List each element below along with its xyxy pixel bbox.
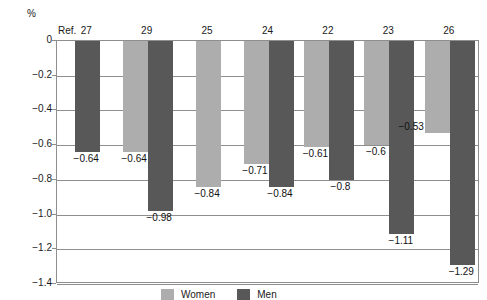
- bar-men: [75, 41, 100, 152]
- bar-women: [196, 41, 221, 187]
- bar-value-label-men: −0.8: [320, 181, 360, 192]
- x-axis-category-label: 27: [66, 25, 106, 36]
- y-axis-tick-label: 0: [8, 35, 52, 45]
- gridline: [57, 215, 478, 216]
- y-axis-tick-label: −0.2: [8, 70, 52, 80]
- gridline: [57, 284, 478, 285]
- bar-value-label-men: −0.84: [260, 188, 300, 199]
- bar-men: [450, 41, 475, 265]
- bar-value-label-women: −0.64: [114, 153, 154, 164]
- y-axis-tick-mark: [52, 40, 56, 41]
- bar-value-label-women: −0.84: [187, 188, 227, 199]
- legend-item-men: Men: [237, 289, 276, 300]
- y-axis-tick-label: −1.4: [8, 278, 52, 288]
- y-axis-tick-mark: [52, 214, 56, 215]
- legend-label-men: Men: [257, 289, 276, 300]
- gridline: [57, 249, 478, 250]
- y-axis-tick-label: −0.8: [8, 174, 52, 184]
- y-axis-unit-label: %: [27, 8, 36, 19]
- y-axis-tick-mark: [52, 179, 56, 180]
- bar-women: [364, 41, 389, 145]
- bar-women: [425, 41, 450, 133]
- x-axis-category-label: 29: [127, 25, 167, 36]
- y-axis-tick-mark: [52, 283, 56, 284]
- x-axis-category-label: 25: [187, 25, 227, 36]
- bar-women: [244, 41, 269, 164]
- bar-women: [304, 41, 329, 147]
- bar-women: [123, 41, 148, 152]
- x-axis-category-label: 23: [368, 25, 408, 36]
- y-axis-tick-mark: [52, 109, 56, 110]
- legend-item-women: Women: [161, 289, 215, 300]
- bar-value-label-men: −0.98: [139, 212, 179, 223]
- bar-men: [148, 41, 173, 211]
- bar-value-label-women: −0.53: [394, 121, 424, 132]
- x-axis-category-label: 26: [429, 25, 469, 36]
- bar-value-label-men: −1.11: [381, 235, 421, 246]
- x-axis-category-label: 22: [308, 25, 348, 36]
- y-axis-tick-label: −1.2: [8, 243, 52, 253]
- legend-swatch-women-icon: [161, 289, 174, 300]
- bar-value-label-men: −1.29: [441, 266, 481, 277]
- gridline: [57, 180, 478, 181]
- legend-swatch-men-icon: [237, 289, 250, 300]
- bar-value-label-women: −0.71: [235, 165, 275, 176]
- y-axis-tick-label: −0.6: [8, 139, 52, 149]
- bar-value-label-women: −0.6: [356, 146, 396, 157]
- y-axis-tick-label: −1.0: [8, 209, 52, 219]
- bar-men: [389, 41, 414, 234]
- chart-legend: Women Men: [161, 289, 299, 300]
- bar-men: [329, 41, 354, 180]
- legend-label-women: Women: [181, 289, 215, 300]
- y-axis-tick-mark: [52, 248, 56, 249]
- bar-value-label-women: −0.61: [295, 148, 335, 159]
- bar-value-label-men: −0.64: [66, 153, 106, 164]
- y-axis-tick-label: −0.4: [8, 104, 52, 114]
- y-axis-tick-mark: [52, 144, 56, 145]
- y-axis-tick-mark: [52, 75, 56, 76]
- x-axis-category-label: 24: [248, 25, 288, 36]
